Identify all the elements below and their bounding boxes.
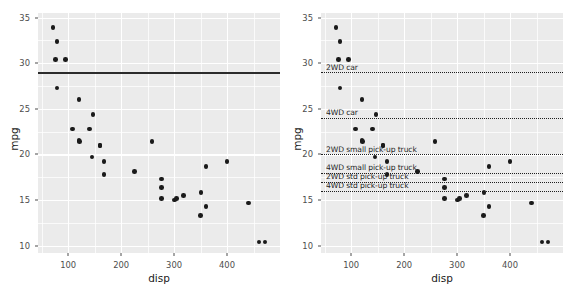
x-tick-mark <box>351 253 352 256</box>
data-point <box>481 213 486 218</box>
x-tick-label: 300 <box>449 260 465 270</box>
y-tick-label: 30 <box>4 58 30 68</box>
grid-line-minor-vertical <box>378 13 379 253</box>
data-point <box>132 169 137 174</box>
y-tick-label: 35 <box>4 13 30 23</box>
data-point <box>370 127 375 132</box>
data-point <box>442 196 447 201</box>
data-point <box>442 177 447 182</box>
x-tick-label: 200 <box>396 260 412 270</box>
data-point <box>98 143 103 148</box>
data-point <box>360 139 365 144</box>
grid-line-minor-vertical <box>254 13 255 253</box>
data-point <box>55 39 60 44</box>
x-tick-mark <box>121 253 122 256</box>
y-tick-label: 35 <box>287 13 313 23</box>
data-point <box>373 155 378 160</box>
data-point <box>508 159 513 164</box>
grid-line-minor-horizontal <box>321 223 563 224</box>
reference-line-dotted <box>321 154 563 155</box>
data-point <box>77 139 82 144</box>
y-tick-mark <box>318 17 321 18</box>
grid-line-major-horizontal <box>38 109 280 110</box>
grid-line-major-horizontal <box>321 18 563 19</box>
grid-line-major-horizontal <box>38 154 280 155</box>
data-point <box>70 127 75 132</box>
data-point <box>55 86 60 91</box>
y-tick-label: 10 <box>287 241 313 251</box>
data-point <box>433 139 438 144</box>
grid-line-minor-vertical <box>537 13 538 253</box>
y-tick-label: 25 <box>287 104 313 114</box>
reference-line-dotted <box>321 191 563 192</box>
x-tick-mark <box>68 253 69 256</box>
reference-line-label: 2WD std pick-up truck <box>326 172 408 181</box>
grid-line-minor-horizontal <box>38 40 280 41</box>
grid-line-minor-vertical <box>42 13 43 253</box>
y-tick-mark <box>35 63 38 64</box>
data-point <box>336 57 341 62</box>
reference-line-label: 4WD small pick-up truck <box>326 163 417 172</box>
data-point <box>455 198 460 203</box>
plot-panel-left: 101520253035100200300400 disp mpg <box>0 0 283 298</box>
y-tick-label: 30 <box>287 58 313 68</box>
y-tick-mark <box>35 200 38 201</box>
data-point <box>51 25 56 30</box>
reference-line-label: 4WD car <box>326 108 358 117</box>
data-point <box>204 164 209 169</box>
data-point <box>91 112 96 117</box>
data-point <box>172 198 177 203</box>
grid-line-minor-horizontal <box>321 132 563 133</box>
grid-line-major-vertical <box>68 13 69 253</box>
grid-line-major-vertical <box>227 13 228 253</box>
data-point <box>257 240 262 245</box>
data-point <box>90 155 95 160</box>
data-point <box>102 172 107 177</box>
y-tick-mark <box>35 245 38 246</box>
reference-line-solid <box>38 72 280 73</box>
grid-line-major-vertical <box>404 13 405 253</box>
y-tick-mark <box>35 108 38 109</box>
plot-area-right: 2WD car4WD car2WD small pick-up truck4WD… <box>321 13 563 253</box>
data-point <box>199 190 204 195</box>
reference-line-label: 2WD car <box>326 63 358 72</box>
x-tick-mark <box>227 253 228 256</box>
reference-line-label: 2WD small pick-up truck <box>326 145 417 154</box>
reference-line-dotted <box>321 118 563 119</box>
reference-line-label: 4WD std pick-up truck <box>326 181 408 190</box>
data-point <box>159 177 164 182</box>
data-point <box>63 57 68 62</box>
data-point <box>87 127 92 132</box>
x-axis-title-left: disp <box>38 272 280 284</box>
y-tick-mark <box>318 63 321 64</box>
data-point <box>353 127 358 132</box>
y-tick-mark <box>35 154 38 155</box>
y-tick-label: 10 <box>4 241 30 251</box>
data-point <box>159 196 164 201</box>
reference-line-dotted <box>321 72 563 73</box>
x-tick-label: 400 <box>219 260 235 270</box>
x-axis-title-right: disp <box>321 272 563 284</box>
data-point <box>150 139 155 144</box>
grid-line-minor-vertical <box>95 13 96 253</box>
grid-line-minor-horizontal <box>321 86 563 87</box>
data-point <box>225 159 230 164</box>
y-tick-mark <box>318 200 321 201</box>
plot-area-left <box>38 13 280 253</box>
grid-line-major-vertical <box>121 13 122 253</box>
y-tick-mark <box>318 108 321 109</box>
figure-root: 101520253035100200300400 disp mpg 2WD ca… <box>0 0 566 298</box>
x-tick-label: 100 <box>343 260 359 270</box>
y-tick-label: 15 <box>4 195 30 205</box>
y-tick-mark <box>35 17 38 18</box>
data-point <box>385 172 390 177</box>
data-point <box>360 97 365 102</box>
grid-line-minor-horizontal <box>321 40 563 41</box>
x-tick-mark <box>404 253 405 256</box>
grid-line-major-horizontal <box>38 18 280 19</box>
data-point <box>464 193 469 198</box>
data-point <box>529 201 534 206</box>
x-tick-label: 200 <box>113 260 129 270</box>
grid-line-minor-horizontal <box>38 223 280 224</box>
data-point <box>181 193 186 198</box>
